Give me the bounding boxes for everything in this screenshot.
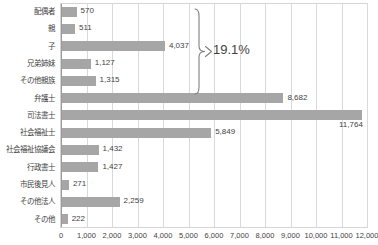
bar-row: 11,764 <box>61 108 367 125</box>
plot-area: 5705114,0371,1271,3158,68211,7645,8491,4… <box>60 3 368 228</box>
value-axis-tick-label: 9,000 <box>281 230 300 242</box>
bar-rows: 5705114,0371,1271,3158,68211,7645,8491,4… <box>61 4 367 227</box>
bar <box>62 214 68 224</box>
bar-value-label: 4,037 <box>169 40 189 52</box>
bar-value-label: 1,427 <box>102 161 122 173</box>
value-axis-tick-label: 11,000 <box>330 230 352 242</box>
value-axis-tick-label: 2,000 <box>103 230 122 242</box>
value-axis-tick-label: 8,000 <box>256 230 275 242</box>
value-axis-tick-label: 10,000 <box>305 230 328 242</box>
bar <box>62 162 98 172</box>
bar-value-label: 271 <box>73 178 86 190</box>
bar-value-label: 1,315 <box>100 74 120 86</box>
bar-value-label: 1,432 <box>103 143 123 155</box>
bar <box>62 24 75 34</box>
bar-row: 1,315 <box>61 73 367 90</box>
bar-value-label: 222 <box>72 213 85 225</box>
bar-row: 4,037 <box>61 39 367 56</box>
value-axis-ticks: 01,0002,0003,0004,0005,0006,0007,0008,00… <box>0 230 377 244</box>
bar-row: 8,682 <box>61 91 367 108</box>
category-label: 親 <box>0 20 55 37</box>
bar-value-label: 8,682 <box>287 92 307 104</box>
value-axis-tick-label: 12,000 <box>356 230 378 242</box>
value-axis-tick-label: 1,000 <box>77 230 96 242</box>
bar-value-label: 5,849 <box>215 126 235 138</box>
bar-row: 271 <box>61 177 367 194</box>
value-axis-tick-label: 5,000 <box>179 230 198 242</box>
value-axis-tick-label: 6,000 <box>205 230 224 242</box>
category-label: その他 <box>0 211 55 228</box>
bar-row: 222 <box>61 212 367 229</box>
bar-value-label: 511 <box>79 22 92 34</box>
value-axis-tick-label: 7,000 <box>230 230 249 242</box>
value-axis-tick-label: 4,000 <box>154 230 173 242</box>
bar <box>62 110 362 120</box>
bar <box>62 41 165 51</box>
bar-value-label: 1,127 <box>95 57 115 69</box>
bar <box>62 76 96 86</box>
category-axis: 配偶者親子兄弟姉妹その他親族弁護士司法書士社会福祉士社会福祉協議会行政書士市民後… <box>0 3 58 228</box>
category-label: 配偶者 <box>0 3 55 20</box>
category-label: 子 <box>0 38 55 55</box>
bar-row: 511 <box>61 21 367 38</box>
category-label: 市民後見人 <box>0 176 55 193</box>
value-axis-tick-label: 3,000 <box>128 230 147 242</box>
bar <box>62 180 69 190</box>
gridline <box>367 4 368 227</box>
category-label: 兄弟姉妹 <box>0 55 55 72</box>
bar-row: 2,259 <box>61 194 367 211</box>
bar-row: 5,849 <box>61 125 367 142</box>
category-label: その他親族 <box>0 72 55 89</box>
category-label: 行政書士 <box>0 159 55 176</box>
category-label: その他法人 <box>0 193 55 210</box>
category-label: 司法書士 <box>0 107 55 124</box>
bar <box>62 59 91 69</box>
bar <box>62 93 283 103</box>
bar-row: 570 <box>61 4 367 21</box>
bar-row: 1,127 <box>61 56 367 73</box>
bar <box>62 7 77 17</box>
bar-value-label: 570 <box>81 5 94 17</box>
bar <box>62 128 211 138</box>
bar <box>62 197 120 207</box>
category-label: 社会福祉協議会 <box>0 141 55 158</box>
category-label: 弁護士 <box>0 90 55 107</box>
bar <box>62 145 99 155</box>
category-label: 社会福祉士 <box>0 124 55 141</box>
value-axis-tick-label: 0 <box>59 230 63 242</box>
bar-value-label: 2,259 <box>124 195 144 207</box>
bar-row: 1,427 <box>61 160 367 177</box>
bar-row: 1,432 <box>61 142 367 159</box>
